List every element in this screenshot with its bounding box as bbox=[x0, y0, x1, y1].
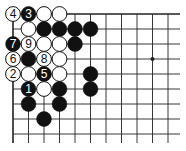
black-stone-icon bbox=[52, 22, 67, 37]
move-number-label: 3 bbox=[25, 7, 32, 21]
star-points bbox=[151, 57, 155, 61]
black-stone bbox=[52, 82, 67, 97]
black-stone-move-5: 5 bbox=[37, 67, 52, 82]
white-stone bbox=[52, 7, 67, 22]
black-stone-icon bbox=[52, 97, 67, 112]
white-stone-move-8: 8 bbox=[37, 52, 52, 67]
move-number-label: 1 bbox=[25, 82, 32, 96]
black-stone bbox=[21, 97, 36, 112]
white-stone bbox=[52, 67, 67, 82]
white-stone-icon bbox=[52, 7, 67, 22]
black-stone bbox=[83, 82, 98, 97]
white-stone bbox=[52, 37, 67, 52]
black-stone-icon bbox=[37, 112, 52, 127]
black-stone bbox=[52, 97, 67, 112]
go-board: 437968251 bbox=[0, 0, 186, 151]
black-stone-icon bbox=[37, 22, 52, 37]
move-number-label: 4 bbox=[10, 7, 17, 21]
star-point-icon bbox=[151, 57, 155, 61]
white-stone-icon bbox=[37, 7, 52, 22]
white-stone-move-4: 4 bbox=[6, 7, 21, 22]
move-number-label: 8 bbox=[41, 52, 48, 66]
black-stone bbox=[83, 67, 98, 82]
white-stone bbox=[52, 52, 67, 67]
white-stone-move-2: 2 bbox=[6, 67, 21, 82]
white-stone-icon bbox=[37, 37, 52, 52]
black-stone-icon bbox=[52, 82, 67, 97]
black-stone bbox=[37, 112, 52, 127]
black-stone bbox=[68, 22, 83, 37]
white-stone-icon bbox=[21, 22, 36, 37]
move-number-label: 2 bbox=[10, 67, 17, 81]
black-stone-icon bbox=[68, 37, 83, 52]
white-stone-move-9: 9 bbox=[21, 37, 36, 52]
black-stone-icon bbox=[21, 97, 36, 112]
black-stone-move-7: 7 bbox=[6, 37, 21, 52]
move-number-label: 7 bbox=[10, 37, 17, 51]
black-stone-icon bbox=[83, 22, 98, 37]
white-stone-icon bbox=[52, 67, 67, 82]
black-stone-icon bbox=[83, 67, 98, 82]
white-stone bbox=[37, 82, 52, 97]
black-stone-move-1: 1 bbox=[21, 82, 36, 97]
black-stone-move-3: 3 bbox=[21, 7, 36, 22]
black-stone-icon bbox=[83, 82, 98, 97]
black-stone-icon bbox=[21, 52, 36, 67]
white-stone-move-6: 6 bbox=[6, 52, 21, 67]
white-stone-icon bbox=[52, 37, 67, 52]
white-stone-icon bbox=[37, 82, 52, 97]
move-number-label: 9 bbox=[25, 37, 32, 51]
black-stone bbox=[37, 22, 52, 37]
move-number-label: 5 bbox=[41, 67, 48, 81]
black-stone bbox=[68, 37, 83, 52]
white-stone bbox=[21, 22, 36, 37]
black-stone bbox=[21, 52, 36, 67]
move-number-label: 6 bbox=[10, 52, 17, 66]
white-stone-icon bbox=[21, 67, 36, 82]
black-stone-icon bbox=[68, 22, 83, 37]
white-stone bbox=[21, 67, 36, 82]
black-stone bbox=[83, 22, 98, 37]
white-stone-icon bbox=[52, 52, 67, 67]
stones-layer: 437968251 bbox=[6, 7, 98, 127]
white-stone bbox=[37, 37, 52, 52]
black-stone bbox=[52, 22, 67, 37]
white-stone bbox=[37, 7, 52, 22]
